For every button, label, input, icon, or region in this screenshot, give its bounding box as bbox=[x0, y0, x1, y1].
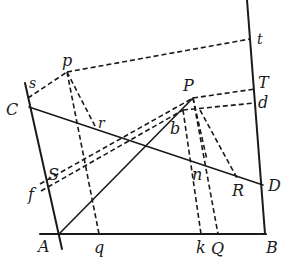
label-R: R bbox=[231, 181, 244, 200]
label-t: t bbox=[257, 31, 263, 47]
label-r: r bbox=[98, 115, 106, 131]
label-C: C bbox=[6, 100, 18, 119]
label-D: D bbox=[267, 176, 281, 195]
dash-S-P bbox=[40, 98, 193, 184]
dash-P-T bbox=[193, 89, 255, 98]
dash-b-R bbox=[200, 110, 237, 178]
label-P: P bbox=[182, 76, 194, 95]
dash-p-r bbox=[67, 72, 96, 128]
label-B: B bbox=[265, 238, 278, 257]
label-q: q bbox=[94, 238, 104, 257]
label-b: b bbox=[170, 119, 180, 138]
label-A: A bbox=[36, 237, 50, 256]
label-S: S bbox=[48, 165, 59, 184]
label-T: T bbox=[258, 73, 270, 92]
label-Q: Q bbox=[211, 239, 224, 258]
label-n: n bbox=[192, 165, 202, 184]
label-f: f bbox=[27, 185, 37, 204]
label-d: d bbox=[258, 93, 268, 112]
dash-p-t bbox=[67, 39, 250, 72]
label-k: k bbox=[196, 238, 206, 257]
label-p-lower: p bbox=[62, 51, 72, 70]
label-s: s bbox=[29, 75, 36, 91]
dash-P-n bbox=[193, 98, 207, 160]
geometry-diagram: p s C r t P T d b S f n R D A q k Q B bbox=[0, 0, 292, 270]
